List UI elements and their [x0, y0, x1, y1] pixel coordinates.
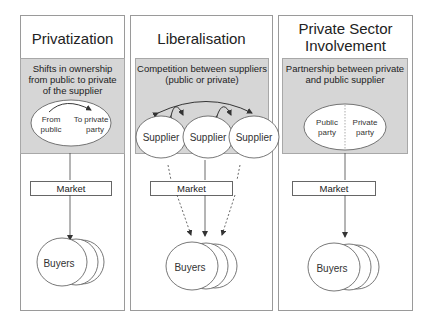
dashed-arrow: [177, 195, 191, 235]
diagram-shapes: Frompublic To privateparty Buyers Suppli…: [0, 0, 435, 331]
ownership-ellipse: Frompublic To privateparty: [31, 100, 111, 146]
buyers-circles: Buyers: [308, 243, 379, 291]
svg-text:Publicparty: Publicparty: [316, 118, 338, 137]
svg-text:Frompublic: Frompublic: [41, 115, 62, 134]
svg-text:Buyers: Buyers: [43, 258, 74, 269]
svg-text:Buyers: Buyers: [316, 263, 347, 274]
svg-text:Supplier: Supplier: [143, 132, 180, 143]
buyers-circles: Buyers: [37, 238, 104, 286]
suppliers-group: Supplier Supplier Supplier: [136, 102, 279, 159]
svg-text:Buyers: Buyers: [174, 262, 205, 273]
svg-text:Supplier: Supplier: [190, 132, 227, 143]
partnership-ellipse: Publicparty Privateparty: [304, 104, 386, 150]
buyers-circles: Buyers: [166, 242, 237, 290]
svg-text:Supplier: Supplier: [236, 132, 273, 143]
dashed-arrow: [222, 195, 235, 235]
